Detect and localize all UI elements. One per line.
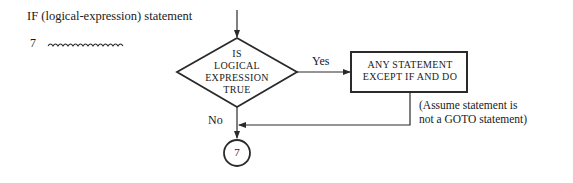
yes-label: Yes [312, 54, 329, 69]
decision-line: TRUE [187, 84, 287, 96]
statement-label: 7 [30, 36, 36, 51]
statement-syntax: IF (logical-expression) statement [27, 9, 192, 24]
process-text: ANY STATEMENT EXCEPT IF AND DO [353, 59, 467, 83]
no-label: No [208, 113, 223, 128]
process-line: EXCEPT IF AND DO [353, 71, 467, 83]
decision-line: IS [187, 48, 287, 60]
decision-line: LOGICAL [187, 60, 287, 72]
note-line: not a GOTO statement) [419, 112, 527, 126]
decision-text: IS LOGICAL EXPRESSION TRUE [187, 48, 287, 96]
note-line: (Assume statement is [419, 98, 527, 112]
connector-label: 7 [227, 146, 247, 158]
decision-line: EXPRESSION [187, 72, 287, 84]
process-line: ANY STATEMENT [353, 59, 467, 71]
assumption-note: (Assume statement is not a GOTO statemen… [419, 98, 527, 126]
wavy-underline [48, 44, 123, 46]
return-line [239, 92, 410, 125]
